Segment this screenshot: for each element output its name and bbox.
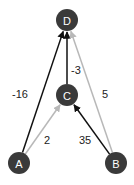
directed-graph: -162-3355 DCAB [0, 0, 134, 185]
node-label: A [15, 158, 23, 170]
node-label: C [63, 90, 71, 102]
node-c: C [56, 84, 78, 106]
node-label: D [63, 15, 71, 27]
edge-weight-label: -3 [71, 64, 81, 76]
edge-weight-label: 5 [102, 88, 108, 100]
node-label: B [112, 158, 119, 170]
edge-weight-label: 2 [44, 134, 50, 146]
node-d: D [56, 9, 78, 31]
node-b: B [105, 152, 127, 174]
edge-weight-label: -16 [12, 88, 28, 100]
edge-weight-label: 35 [79, 134, 91, 146]
node-a: A [8, 152, 30, 174]
